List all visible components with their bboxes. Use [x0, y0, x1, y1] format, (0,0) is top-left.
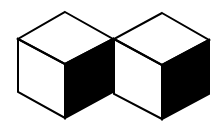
right-cube	[114, 13, 209, 119]
left-cube	[18, 12, 113, 118]
two-cubes-diagram	[0, 0, 224, 132]
